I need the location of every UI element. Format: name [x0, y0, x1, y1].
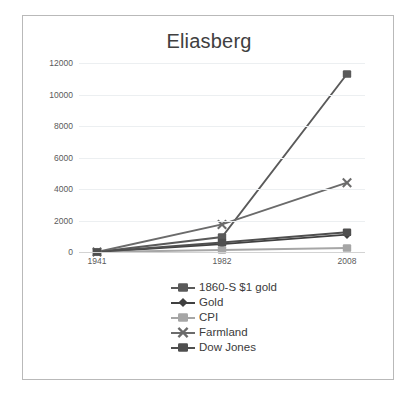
legend-item-label: Farmland: [199, 326, 248, 339]
x-axis-tick-label: 2008: [338, 256, 357, 266]
legend-item[interactable]: 1860-S $1 gold: [171, 280, 277, 295]
axis-baseline: [79, 252, 365, 253]
legend-item-label: Dow Jones: [199, 341, 256, 354]
legend-item[interactable]: Farmland: [171, 325, 248, 340]
series-point-marker: [218, 239, 226, 247]
series-point-marker: [343, 70, 351, 78]
legend-marker-square-icon: [171, 281, 195, 294]
plot-area: 120001000080006000400020000194119822008: [79, 63, 365, 252]
gridline: [79, 189, 365, 190]
y-axis-tick-label: 2000: [54, 216, 73, 226]
x-axis-tick-label: 1941: [88, 256, 107, 266]
legend-item[interactable]: Dow Jones: [171, 340, 256, 355]
y-axis-tick-label: 12000: [49, 58, 73, 68]
legend-item-label: 1860-S $1 gold: [199, 281, 277, 294]
legend-marker-square-icon: [171, 311, 195, 324]
legend-marker-glyph: [171, 311, 195, 324]
x-axis-tick-label: 1982: [213, 256, 232, 266]
y-axis-tick-label: 4000: [54, 184, 73, 194]
gridline: [79, 158, 365, 159]
series-point-marker: [343, 244, 351, 252]
legend-item[interactable]: Gold: [171, 295, 223, 310]
gridline: [79, 221, 365, 222]
y-axis-tick-label: 0: [68, 247, 73, 257]
legend-item[interactable]: CPI: [171, 310, 218, 325]
legend-item-label: CPI: [199, 311, 218, 324]
chart-legend: 1860-S $1 goldGoldCPIFarmlandDow Jones: [23, 280, 395, 355]
y-axis-tick-label: 6000: [54, 153, 73, 163]
gridline: [79, 126, 365, 127]
legend-item-label: Gold: [199, 296, 223, 309]
gridline: [79, 63, 365, 64]
legend-marker-square-icon: [171, 341, 195, 354]
legend-marker-glyph: [171, 281, 195, 294]
legend-marker-glyph: [171, 296, 195, 309]
chart-frame: Eliasberg 120001000080006000400020000194…: [22, 15, 394, 380]
y-axis-tick-label: 10000: [49, 90, 73, 100]
plot-wrapper: 120001000080006000400020000194119822008: [23, 16, 395, 276]
legend-marker-glyph: [171, 326, 195, 339]
legend-marker-glyph: [171, 341, 195, 354]
y-axis-tick-label: 8000: [54, 121, 73, 131]
legend-marker-x-icon: [171, 326, 195, 339]
series-point-marker: [343, 229, 351, 237]
legend-marker-diamond-icon: [171, 296, 195, 309]
gridline: [79, 95, 365, 96]
